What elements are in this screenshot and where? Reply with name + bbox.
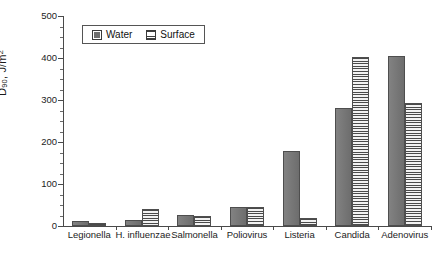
x-axis-category-label: Poliovirus <box>221 229 274 240</box>
x-axis-tick <box>378 226 379 230</box>
x-axis-category-label: Adenovirus <box>378 229 431 240</box>
bar-surface <box>89 223 106 226</box>
bar-surface <box>194 216 211 227</box>
x-axis-category-label: Salmonella <box>168 229 221 240</box>
x-axis-tick <box>221 226 222 230</box>
bar-surface <box>142 209 159 226</box>
bar-water <box>335 108 352 226</box>
legend-label-surface: Surface <box>160 29 194 40</box>
bar-group-container: LegionellaH. influenzaeSalmonellaPoliovi… <box>0 0 438 261</box>
bar-water <box>230 207 247 226</box>
x-axis-tick <box>273 226 274 230</box>
figure-bar-chart: D90, J/m2 0100200300400500 LegionellaH. … <box>0 0 438 261</box>
x-axis-category-label: Listeria <box>273 229 326 240</box>
x-axis-tick <box>326 226 327 230</box>
bar-surface <box>405 103 422 226</box>
bar-water <box>125 220 142 226</box>
bar-water <box>283 151 300 226</box>
legend-entry-surface: Surface <box>146 29 194 40</box>
x-axis-category-label: Candida <box>326 229 379 240</box>
legend-entry-water: Water <box>92 29 132 40</box>
legend-swatch-surface-icon <box>146 30 156 40</box>
x-axis-tick <box>431 226 432 230</box>
chart-legend: Water Surface <box>82 25 205 44</box>
bar-surface <box>247 207 264 226</box>
x-axis-category-label: Legionella <box>63 229 116 240</box>
legend-swatch-water-icon <box>92 30 102 40</box>
legend-label-water: Water <box>106 29 132 40</box>
bar-water <box>388 56 405 226</box>
bar-surface <box>300 218 317 226</box>
bar-surface <box>352 57 369 226</box>
x-axis-tick <box>116 226 117 230</box>
bar-water <box>72 221 89 226</box>
x-axis-category-label: H. influenzae <box>116 229 169 240</box>
x-axis-tick <box>168 226 169 230</box>
bar-water <box>177 215 194 226</box>
